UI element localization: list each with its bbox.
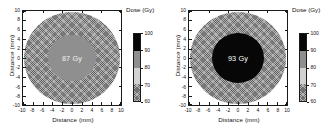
dose-region-80-90: 87 Gy xyxy=(48,35,96,81)
colorbar-tick-label: 70 xyxy=(311,82,317,88)
plot-area: 87 Gy xyxy=(22,10,122,106)
panel-left: Distance (mm) Distance (mm) 87 Gy xyxy=(0,0,165,131)
x-tick xyxy=(238,102,239,105)
colorbar-tick-label: 100 xyxy=(311,30,319,36)
y-tick xyxy=(23,86,26,87)
x-tick xyxy=(52,102,53,105)
colorbar-title: Dose (Gy) xyxy=(292,6,320,13)
y-tick-label: 8 xyxy=(6,16,20,22)
y-tick xyxy=(23,11,26,12)
y-tick-label: 0 xyxy=(172,55,186,61)
colorbar-tick-label: 60 xyxy=(311,98,317,104)
colorbar-tick xyxy=(307,68,309,69)
x-tick xyxy=(248,102,249,105)
y-tick xyxy=(23,58,26,59)
y-tick-right xyxy=(285,49,287,50)
plot-area: 93 Gy xyxy=(188,10,288,106)
colorbar-tick xyxy=(307,102,309,103)
y-tick xyxy=(189,96,192,97)
y-tick-right xyxy=(285,67,287,68)
x-tick xyxy=(92,102,93,105)
colorbar xyxy=(299,33,307,102)
panel-right: Distance (mm) Distance (mm) 93 Gy xyxy=(166,0,331,131)
colorbar-tick xyxy=(141,33,143,34)
y-tick-label: 2 xyxy=(172,45,186,51)
x-tick xyxy=(33,102,34,105)
y-tick xyxy=(23,96,26,97)
y-tick-label: 2 xyxy=(6,45,20,51)
x-tick-label: 10 xyxy=(114,107,128,113)
y-tick-right xyxy=(119,104,121,105)
colorbar-band-60-70 xyxy=(134,84,140,101)
y-tick xyxy=(23,104,26,105)
y-tick-label: 8 xyxy=(172,16,186,22)
colorbar-tick xyxy=(141,68,143,69)
y-tick-label: -2 xyxy=(172,64,186,70)
colorbar-band-90-100 xyxy=(134,34,140,51)
y-tick xyxy=(189,58,192,59)
y-tick-label: -2 xyxy=(6,64,20,70)
y-tick xyxy=(23,39,26,40)
y-tick-label: -4 xyxy=(6,74,20,80)
colorbar xyxy=(133,33,141,102)
x-tick-top xyxy=(248,11,249,13)
y-tick xyxy=(23,20,26,21)
y-tick xyxy=(189,49,192,50)
y-tick xyxy=(189,39,192,40)
dose-distribution-figure: Distance (mm) Distance (mm) 87 Gy xyxy=(0,0,331,131)
colorbar-tick-label: 90 xyxy=(145,47,151,53)
x-axis-title: Distance (mm) xyxy=(184,116,294,123)
x-tick-top xyxy=(101,11,102,13)
x-tick xyxy=(218,102,219,105)
y-tick-right xyxy=(119,30,121,31)
x-tick xyxy=(72,102,73,105)
y-tick-label: -10 xyxy=(172,102,186,108)
y-tick xyxy=(23,67,26,68)
y-tick xyxy=(23,30,26,31)
y-tick-right xyxy=(119,86,121,87)
core-dose-label: 87 Gy xyxy=(62,54,82,63)
y-tick-label: -10 xyxy=(6,102,20,108)
y-tick-label: -4 xyxy=(172,74,186,80)
x-tick-top xyxy=(82,11,83,13)
colorbar-tick xyxy=(141,102,143,103)
y-tick-label: 4 xyxy=(172,36,186,42)
y-tick xyxy=(189,67,192,68)
colorbar-tick xyxy=(141,85,143,86)
y-tick-label: -6 xyxy=(6,84,20,90)
y-tick-right xyxy=(285,30,287,31)
colorbar-title: Dose (Gy) xyxy=(126,6,154,13)
y-tick-label: 0 xyxy=(6,55,20,61)
x-tick xyxy=(277,102,278,105)
dose-map: 87 Gy xyxy=(23,11,121,105)
y-tick-right xyxy=(119,67,121,68)
x-tick xyxy=(111,102,112,105)
y-tick-label: -8 xyxy=(172,93,186,99)
y-tick-label: 6 xyxy=(172,26,186,32)
colorbar-band-80-90 xyxy=(134,51,140,68)
y-tick xyxy=(189,104,192,105)
y-tick-right xyxy=(285,104,287,105)
colorbar-tick-label: 70 xyxy=(145,82,151,88)
colorbar-tick-label: 80 xyxy=(145,64,151,70)
x-tick xyxy=(62,102,63,105)
colorbar-tick-label: 80 xyxy=(311,64,317,70)
y-tick-right xyxy=(285,86,287,87)
x-tick xyxy=(43,102,44,105)
colorbar-band-80-90 xyxy=(300,51,306,68)
colorbar-band-70-80 xyxy=(134,68,140,85)
dose-map: 93 Gy xyxy=(189,11,287,105)
colorbar-tick xyxy=(307,33,309,34)
y-tick-label: 10 xyxy=(172,7,186,13)
x-tick-top xyxy=(62,11,63,13)
colorbar-tick-label: 60 xyxy=(145,98,151,104)
y-tick xyxy=(23,77,26,78)
y-tick xyxy=(189,86,192,87)
y-tick-label: 4 xyxy=(6,36,20,42)
x-tick-label: 10 xyxy=(280,107,294,113)
dose-region-90-100: 93 Gy xyxy=(212,33,264,83)
x-tick-top xyxy=(43,11,44,13)
colorbar-band-70-80 xyxy=(300,68,306,85)
y-tick-label: -6 xyxy=(172,84,186,90)
colorbar-band-90-100 xyxy=(300,34,306,51)
